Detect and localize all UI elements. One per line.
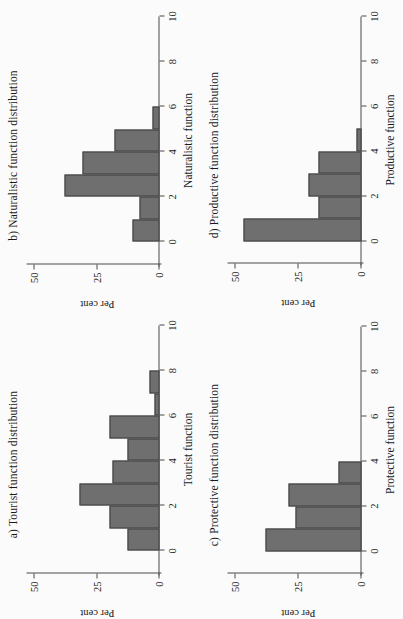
histogram-bar (127, 438, 160, 461)
x-axis-label: Tourist function (181, 413, 193, 487)
histogram-bar (109, 416, 159, 439)
histogram-bar (318, 196, 361, 218)
x-axis-label: Naturalistic function (181, 93, 193, 188)
panel-d-productive: d) Productive function distribution 0255… (201, 0, 403, 310)
x-axis-tick (159, 15, 164, 16)
y-axis-label: Per cent (281, 298, 315, 309)
panel-canvas: b) Naturalistic function distribution 02… (0, 0, 201, 310)
y-axis-tick-label: 50 (29, 272, 40, 283)
histogram-bar (114, 129, 159, 152)
x-axis-tick (159, 415, 164, 416)
panel-a-tourist: a) Tourist function distribution 0255002… (0, 310, 201, 619)
x-axis-tick (159, 195, 164, 196)
y-axis-tick (360, 264, 361, 269)
x-axis-tick-label: 8 (166, 368, 177, 373)
x-axis-tick-label: 10 (166, 11, 177, 22)
x-axis-tick-label: 0 (368, 238, 379, 243)
x-axis-tick (361, 370, 366, 371)
histogram-bar (356, 129, 361, 151)
x-axis-tick-label: 6 (368, 413, 379, 418)
y-axis-tick (234, 264, 235, 269)
x-axis-tick (361, 195, 366, 196)
y-axis-tick-label: 50 (230, 581, 241, 592)
x-axis-label: Productive function (383, 94, 395, 185)
x-axis-tick (159, 150, 164, 151)
x-axis-tick-label: 6 (368, 104, 379, 109)
x-axis-tick-label: 8 (368, 59, 379, 64)
panel-c-protective: c) Protective function distribution 0255… (201, 310, 403, 619)
histogram-bar (338, 461, 361, 483)
x-axis-tick-label: 0 (166, 239, 177, 244)
x-axis-label: Protective function (383, 406, 395, 494)
x-axis-tick (159, 550, 164, 551)
x-axis-tick-label: 8 (368, 368, 379, 373)
histogram-bar (82, 151, 160, 174)
y-axis-label: Per cent (281, 608, 315, 619)
histogram-bar (127, 528, 160, 551)
y-axis-tick-label: 25 (91, 272, 102, 283)
histogram-bar (79, 483, 159, 506)
histogram-bar (132, 219, 160, 242)
y-axis-label: Per cent (79, 299, 113, 310)
x-axis-tick-label: 2 (166, 194, 177, 199)
x-axis-tick (159, 370, 164, 371)
x-axis-tick (361, 415, 366, 416)
y-axis-tick-label: 0 (356, 581, 367, 586)
histogram-bar (149, 371, 159, 394)
y-axis-tick (360, 573, 361, 578)
y-axis-tick (234, 573, 235, 578)
x-axis-tick (159, 240, 164, 241)
bar-series (235, 17, 361, 264)
x-axis-tick-label: 4 (166, 149, 177, 154)
y-axis-tick (158, 574, 159, 579)
panel-title: b) Naturalistic function distribution (6, 0, 18, 310)
plot-area: 025500246810Per centProductive function (235, 17, 361, 264)
y-axis-tick (96, 264, 97, 269)
bar-series (34, 326, 159, 574)
x-axis-tick-label: 10 (166, 320, 177, 331)
x-axis-tick-label: 8 (166, 58, 177, 63)
plot-area: 025500246810Per centTourist function (34, 326, 159, 574)
x-axis-tick (361, 550, 366, 551)
x-axis-tick-label: 10 (368, 321, 379, 332)
x-axis-tick-label: 0 (368, 548, 379, 553)
y-axis-tick-label: 0 (154, 272, 165, 277)
y-axis-tick-label: 25 (293, 272, 304, 283)
histogram-bar (152, 106, 160, 129)
histogram-bar (308, 174, 361, 196)
y-axis-tick (297, 264, 298, 269)
x-axis-tick (361, 505, 366, 506)
x-axis-tick (361, 325, 366, 326)
histogram-bar (112, 461, 160, 484)
bar-series (34, 16, 159, 264)
x-axis-tick (361, 240, 366, 241)
panel-title: d) Productive function distribution (207, 1, 219, 310)
y-axis-tick (158, 264, 159, 269)
x-axis-tick (159, 325, 164, 326)
histogram-bar (243, 219, 361, 241)
x-axis-tick-label: 0 (166, 548, 177, 553)
x-axis-tick (159, 460, 164, 461)
panel-title: a) Tourist function distribution (6, 310, 18, 619)
x-axis-tick-label: 10 (368, 11, 379, 22)
figure-grid: b) Naturalistic function distribution 02… (0, 0, 403, 619)
histogram-bar (295, 506, 361, 528)
panel-title: c) Protective function distribution (207, 310, 219, 619)
histogram-bar (318, 151, 361, 173)
x-axis-tick-label: 2 (368, 503, 379, 508)
histogram-bar (139, 196, 159, 219)
histogram-bar (288, 483, 361, 505)
x-axis-tick (159, 505, 164, 506)
y-axis-label: Per cent (79, 608, 113, 619)
x-axis-tick (361, 460, 366, 461)
panel-canvas: d) Productive function distribution 0255… (201, 1, 403, 310)
panel-b-naturalistic: b) Naturalistic function distribution 02… (0, 0, 201, 310)
x-axis-tick (159, 105, 164, 106)
y-axis-tick (297, 573, 298, 578)
plot-area: 025500246810Per centProtective function (235, 326, 361, 573)
x-axis-tick (361, 150, 366, 151)
x-axis-tick (159, 60, 164, 61)
x-axis-tick-label: 2 (166, 503, 177, 508)
y-axis-tick (33, 574, 34, 579)
x-axis-tick-label: 4 (368, 458, 379, 463)
